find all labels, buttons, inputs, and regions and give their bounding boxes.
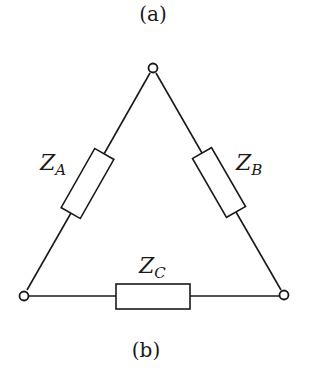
label-zb: ZB bbox=[235, 150, 262, 179]
impedance-zc bbox=[116, 284, 190, 309]
wire-top-to-za bbox=[104, 73, 150, 154]
wire-zb-to-right bbox=[236, 212, 281, 290]
label-za: ZA bbox=[39, 150, 66, 179]
wire-top-to-zb bbox=[156, 73, 202, 153]
node-top-terminal bbox=[149, 64, 158, 73]
delta-circuit-diagram: ZA ZB ZC bbox=[0, 0, 319, 382]
label-zc: ZC bbox=[138, 253, 166, 282]
caption-b: (b) bbox=[116, 338, 176, 362]
node-right-terminal bbox=[280, 291, 289, 300]
impedance-za bbox=[61, 149, 114, 219]
node-left-terminal bbox=[20, 292, 29, 301]
wire-za-to-left bbox=[27, 213, 71, 290]
